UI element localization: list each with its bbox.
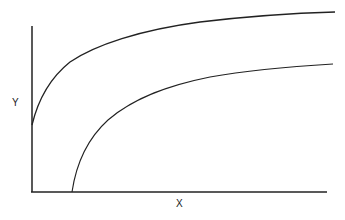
diagram-canvas <box>0 0 345 220</box>
lower-curve <box>72 64 333 192</box>
y-axis-label: Y <box>12 97 19 108</box>
x-axis-label: X <box>176 198 183 209</box>
upper-curve <box>32 12 335 125</box>
